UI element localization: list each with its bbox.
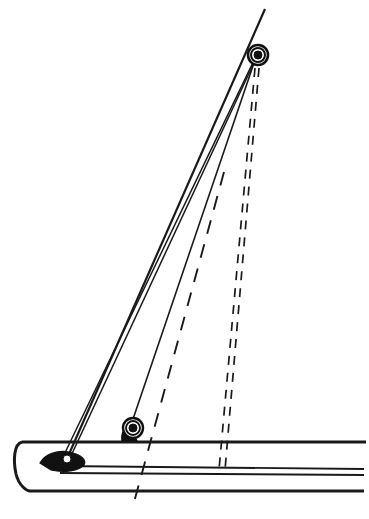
rigging-diagram-canvas: [0, 0, 369, 519]
masthead-ring-group: [248, 45, 268, 65]
rigging-diagram-svg: [0, 0, 369, 519]
bow-fitting-hole: [63, 455, 71, 463]
masthead-ring-pin: [254, 51, 262, 59]
deck-block-sheave-pin: [129, 424, 137, 432]
